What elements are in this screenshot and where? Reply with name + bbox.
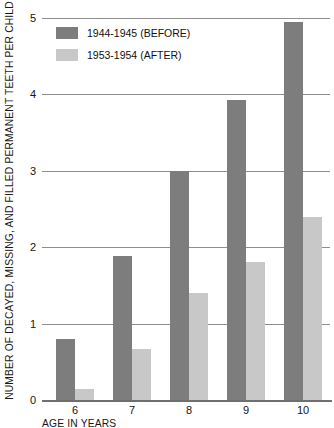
bar	[75, 389, 94, 400]
y-tick-label: 3	[24, 165, 36, 177]
bar	[113, 256, 132, 400]
bar	[303, 217, 322, 400]
bar	[246, 262, 265, 400]
bar	[56, 339, 75, 400]
y-axis-title-text: NUMBER OF DECAYED, MISSING, AND FILLED P…	[4, 1, 15, 400]
x-tick-label: 7	[112, 404, 152, 416]
legend-label: 1953-1954 (AFTER)	[87, 49, 182, 61]
chart-legend: 1944-1945 (BEFORE)1953-1954 (AFTER)	[56, 25, 190, 69]
y-tick-label: 1	[24, 318, 36, 330]
legend-label: 1944-1945 (BEFORE)	[87, 27, 190, 39]
y-tick-label: 2	[24, 241, 36, 253]
y-tick-label: 4	[24, 88, 36, 100]
bar	[189, 293, 208, 400]
y-tick-label: 0	[24, 394, 36, 406]
x-tick-label: 6	[55, 404, 95, 416]
gridline	[42, 18, 330, 19]
x-tick-label: 9	[226, 404, 266, 416]
bar	[227, 100, 246, 400]
x-axis-line	[42, 400, 332, 402]
legend-swatch	[56, 27, 78, 39]
legend-item: 1953-1954 (AFTER)	[56, 47, 190, 63]
plot-area	[42, 18, 330, 400]
x-axis-title: AGE IN YEARS	[42, 418, 116, 428]
legend-item: 1944-1945 (BEFORE)	[56, 25, 190, 41]
x-tick-label: 8	[169, 404, 209, 416]
bar	[284, 22, 303, 400]
y-tick-label: 5	[24, 12, 36, 24]
bar-chart: NUMBER OF DECAYED, MISSING, AND FILLED P…	[0, 0, 334, 428]
bar	[170, 171, 189, 400]
legend-swatch	[56, 49, 78, 61]
x-tick-label: 10	[283, 404, 323, 416]
y-axis-title: NUMBER OF DECAYED, MISSING, AND FILLED P…	[0, 0, 18, 400]
bar	[132, 349, 151, 400]
